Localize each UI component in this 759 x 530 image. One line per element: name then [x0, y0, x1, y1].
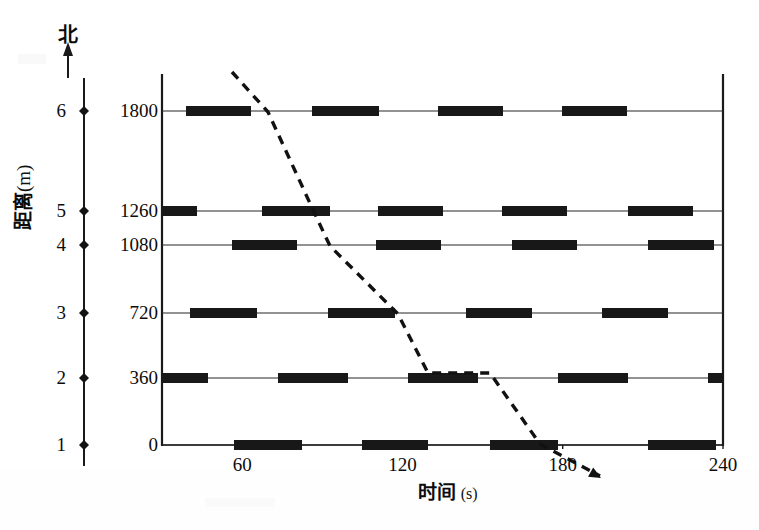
occupancy-bar-station-1-1: [362, 440, 428, 450]
occupancy-bar-station-6-0: [186, 106, 251, 116]
station-number-5: 5: [44, 201, 66, 220]
occupancy-bar-station-6-1: [312, 106, 379, 116]
occupancy-bar-station-2-3: [558, 373, 628, 383]
station-distance-3: 720: [98, 303, 158, 322]
occupancy-bar-station-2-4: [708, 373, 723, 383]
x-axis-title: 时间 (s): [418, 483, 478, 502]
station-distance-6: 1800: [98, 101, 158, 120]
x-tick-label-180: 180: [536, 455, 590, 474]
occupancy-bar-station-4-2: [512, 240, 577, 250]
occupancy-bar-station-5-4: [628, 206, 693, 216]
station-distance-5: 1260: [98, 201, 158, 220]
occupancy-bar-station-3-3: [602, 308, 668, 318]
occupancy-bar-station-2-1: [278, 373, 348, 383]
occupancy-bar-station-6-2: [438, 106, 503, 116]
x-axis-title-main: 时间: [418, 481, 456, 503]
station-distance-2: 360: [98, 368, 158, 387]
x-axis-title-unit: (s): [461, 485, 478, 502]
x-tick-label-240: 240: [696, 455, 750, 474]
occupancy-bar-station-3-0: [190, 308, 257, 318]
occupancy-bar-station-6-3: [562, 106, 627, 116]
station-distance-1: 0: [98, 435, 158, 454]
occupancy-bar-station-5-2: [378, 206, 443, 216]
x-tick-label-60: 60: [215, 455, 269, 474]
occupancy-bar-station-4-0: [232, 240, 297, 250]
occupancy-bar-station-4-1: [376, 240, 441, 250]
station-number-1: 1: [44, 435, 66, 454]
station-distance-4: 1080: [98, 235, 158, 254]
occupancy-bar-station-2-0: [162, 373, 208, 383]
station-number-6: 6: [44, 101, 66, 120]
y-axis-title-unit: (m): [13, 165, 34, 192]
occupancy-bar-station-3-1: [328, 308, 395, 318]
station-number-2: 2: [44, 368, 66, 387]
station-number-4: 4: [44, 235, 66, 254]
time-distance-chart: 北 距离(m) 时间 (s) 654321 180012601080720360…: [0, 0, 759, 530]
occupancy-bar-station-5-3: [502, 206, 567, 216]
occupancy-bar-station-5-1: [262, 206, 330, 216]
x-tick-label-120: 120: [375, 455, 429, 474]
y-axis-title: 距离(m): [14, 165, 33, 230]
occupancy-bar-station-3-2: [466, 308, 532, 318]
occupancy-bar-station-1-0: [234, 440, 302, 450]
station-number-3: 3: [44, 303, 66, 322]
occupancy-bar-station-5-0: [162, 206, 197, 216]
y-axis-title-main: 距离: [12, 192, 34, 230]
north-label: 北: [58, 25, 78, 45]
occupancy-bar-station-4-3: [648, 240, 714, 250]
occupancy-bar-station-1-3: [648, 440, 716, 450]
occupancy-bar-station-1-2: [490, 440, 558, 450]
